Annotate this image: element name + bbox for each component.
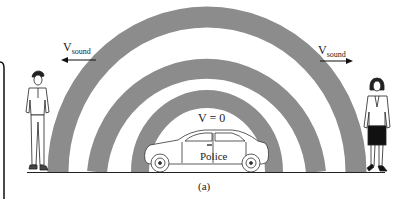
velocity-subscript: sound	[72, 47, 91, 56]
velocity-subscript: sound	[327, 50, 346, 59]
woman-observer-icon	[364, 78, 390, 171]
wave-diagram	[0, 0, 411, 199]
right-velocity-label: Vsound	[318, 44, 346, 59]
side-panel-border	[0, 62, 4, 199]
car-door-text: Police	[200, 150, 228, 162]
figure-caption: (a)	[198, 180, 210, 192]
velocity-symbol: V	[63, 40, 72, 54]
doppler-figure: Vsound Vsound V = 0 Police (a)	[0, 0, 411, 199]
velocity-symbol: V	[318, 43, 327, 57]
man-observer-icon	[26, 71, 49, 170]
car-velocity-label: V = 0	[198, 111, 225, 126]
left-velocity-label: Vsound	[63, 41, 91, 56]
